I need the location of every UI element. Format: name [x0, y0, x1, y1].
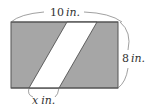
- parallelogram-stripe-diagram: 10in. 8in. xin.: [0, 0, 150, 109]
- height-dimension-arc-lower: [118, 68, 128, 88]
- width-dimension-arc-right: [84, 12, 122, 22]
- width-label: 10in.: [50, 6, 80, 19]
- width-dimension-arc: [11, 12, 44, 22]
- base-dimension-arc-right: [55, 88, 59, 97]
- height-label: 8in.: [122, 52, 145, 65]
- base-label: xin.: [32, 94, 55, 107]
- height-dimension-arc: [120, 22, 129, 50]
